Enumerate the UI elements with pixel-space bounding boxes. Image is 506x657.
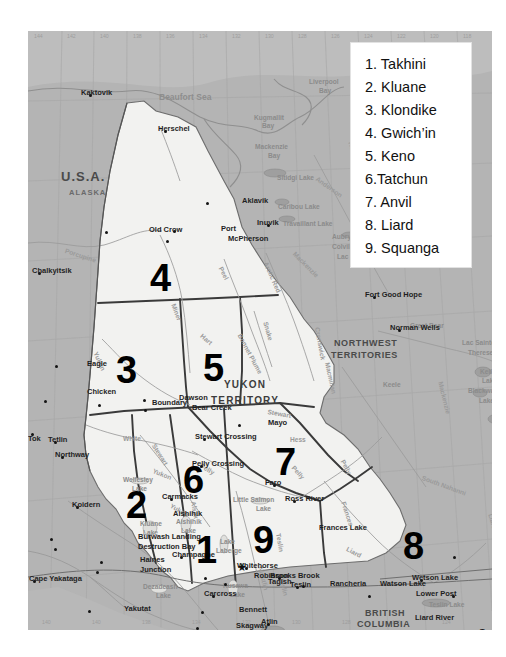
grid-label-bottom: 128 [342,620,351,625]
grid-label-bottom: 140 [42,620,51,625]
water-label: Bay [319,88,331,95]
legend-item-4[interactable]: 4. Gwich’in [351,122,471,145]
grid-label-top: 140 [100,34,109,39]
place-marker [88,610,91,613]
grid-label-top: 134 [199,34,208,39]
territory-label: TERRITORIES [331,351,398,360]
place-label: Port [221,225,236,233]
region-number-gwichin[interactable]: 4 [150,259,171,297]
place-marker [368,595,371,598]
place-label: Yakutat [124,605,151,613]
water-label: Blackwater [468,388,492,395]
place-marker [206,202,209,205]
water-label: Beaufort Sea [159,93,211,102]
place-label: Tetlin [48,436,67,444]
place-label: Norman Wells [390,324,440,332]
legend-item-7[interactable]: 7. Anvil [351,191,471,214]
grid-label-bottom: 130 [292,620,301,625]
water-label: Lac Sainte [462,340,492,347]
water-label: Little Salmon [233,497,274,504]
region-number-klondike[interactable]: 3 [116,351,137,389]
place-label: Chicken [87,388,116,396]
legend-item-6[interactable]: 6.Tatchun [351,168,471,191]
legend-item-8[interactable]: 8. Liard [351,214,471,237]
place-marker [452,595,455,598]
region-number-liard[interactable]: 8 [403,527,424,565]
place-marker [105,231,108,234]
grid-label-top: 132 [232,34,241,39]
place-label: Herschel [158,125,190,133]
place-label: Chalkyitsik [32,267,72,275]
water-label: Teslin Lake [429,602,464,609]
grid-label-top: 144 [34,34,43,39]
water-label: Laberge [216,548,242,555]
place-label: Cape Yakataga [29,575,82,583]
legend-item-1[interactable]: 1. Takhini [351,53,471,76]
grid-label-top: 130 [265,34,274,39]
place-label: Dawson [179,394,208,402]
place-label: Carcross [204,590,237,598]
state-label-alaska: ALASKA [69,189,106,197]
capital-star-icon: ★ [237,562,247,573]
place-label: Bear Creek [192,404,232,412]
place-label: Wetson Lake [412,574,458,582]
region-number-anvil[interactable]: 7 [275,443,296,481]
place-marker [143,399,146,402]
place-marker [54,548,57,551]
place-label: Junction [140,566,171,574]
place-marker [238,424,241,427]
water-label: Frances Lake [319,524,367,532]
water-label: Lake [220,539,235,546]
region-number-keno[interactable]: 5 [203,349,224,387]
legend-item-9[interactable]: 9. Squanga [351,237,471,260]
water-label: Sitidgi Lake [277,175,314,182]
grid-label-top: 124 [364,34,373,39]
place-marker [98,404,101,407]
place-label: Old Crow [149,226,182,234]
place-label: Fort Good Hope [365,291,422,299]
territory-label: BRITISH [365,609,405,618]
place-marker [173,230,176,233]
place-label: Lower Post [416,590,456,598]
region-number-tatchun[interactable]: 6 [183,461,204,499]
water-label: Keller [480,369,492,376]
water-label: Mackenzie [255,144,288,151]
place-label: Burwash Landing [138,533,201,541]
legend-item-3[interactable]: 3. Klondike [351,99,471,122]
water-label: Keele [383,382,401,389]
water-label: Liard River [415,614,454,622]
place-marker [55,365,58,368]
region-number-takhini[interactable]: 1 [196,531,217,569]
place-label: Kaktovik [81,89,112,97]
grid-label-top: 138 [133,34,142,39]
region-number-kluane[interactable]: 2 [126,486,147,524]
grid-label-top: 142 [67,34,76,39]
grid-label-bottom: 138 [142,620,151,625]
territory-label: NORTHWEST [334,339,397,348]
water-label: Liverpool [309,79,339,86]
water-label: Lake [479,398,492,405]
legend-item-2[interactable]: 2. Kluane [351,76,471,99]
grid-label-bottom: 134 [192,620,201,625]
place-label: Tok [28,435,41,443]
legend-list: 1. Takhini 2. Kluane 3. Klondike 4. Gwic… [351,43,471,260]
region-number-squanga[interactable]: 9 [253,521,274,559]
place-label: McPherson [228,235,268,243]
place-marker [44,400,47,403]
region-legend: 1. Takhini 2. Kluane 3. Klondike 4. Gwic… [350,42,472,268]
water-label: Toad River [480,628,492,630]
place-label: Northway [55,451,89,459]
legend-item-5[interactable]: 5. Keno [351,145,471,168]
place-label: Koidern [72,501,100,509]
water-label: Kugmallit [254,115,284,122]
grid-label-top: 120 [430,34,439,39]
country-label-usa: U.S.A. [61,170,105,183]
place-marker [224,583,227,586]
place-marker [201,611,204,614]
grid-label-top: 118 [463,34,471,39]
map-page: 1441421401381361341321301281261241221201… [0,0,506,657]
river-label: White [123,436,141,443]
grid-label-top: 122 [397,34,406,39]
place-label: Stewart Crossing [195,433,257,441]
water-label: Lake [482,378,492,385]
